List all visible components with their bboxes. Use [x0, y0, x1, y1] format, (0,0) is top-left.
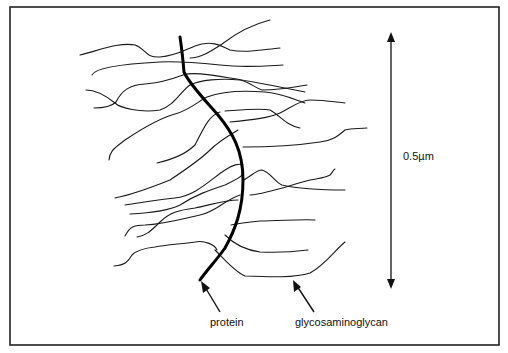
- glycosaminoglycan-chains: [80, 20, 367, 277]
- protein-label: protein: [210, 316, 244, 328]
- scale-bar: [387, 32, 395, 289]
- scale-label: 0.5µm: [403, 150, 434, 162]
- protein-pointer: [201, 281, 220, 312]
- glycosaminoglycan-label: glycosaminoglycan: [295, 316, 388, 328]
- scale-arrow-down-icon: [387, 279, 395, 289]
- figure-frame: [10, 7, 499, 345]
- scale-arrow-up-icon: [387, 32, 395, 42]
- proteoglycan-diagram: protein glycosaminoglycan 0.5µm: [0, 0, 508, 353]
- glycosaminoglycan-pointer: [293, 280, 314, 312]
